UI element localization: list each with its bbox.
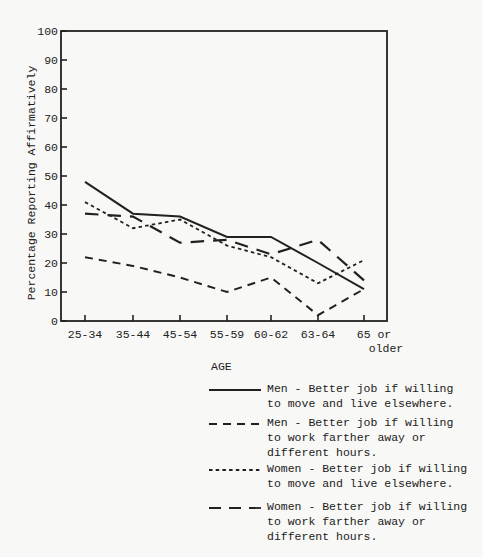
legend-label-line: Men - Better job if willing [267, 381, 453, 396]
medium-dash-swatch-icon [208, 419, 262, 429]
short-dash-swatch-icon [208, 465, 262, 475]
legend-label-line: to work farther away or [267, 514, 467, 529]
legend-entry-women-work: Women - Better job if willing to work fa… [208, 499, 467, 544]
legend-label-line: to move and live elsewhere. [267, 476, 467, 491]
legend-entry-men-move: Men - Better job if willing to move and … [208, 381, 453, 411]
figure-page: 010203040506070809010025-3435-4445-5455-… [0, 0, 483, 557]
legend-entry-men-work: Men - Better job if willing to work fart… [208, 415, 453, 460]
legend-label-line: different hours. [267, 529, 467, 544]
legend-label-line: Women - Better job if willing [267, 461, 467, 476]
solid-line-swatch-icon [208, 385, 262, 395]
legend-label-line: to work farther away or [267, 430, 453, 445]
long-dash-swatch-icon [208, 503, 262, 513]
legend-label-line: Men - Better job if willing [267, 415, 453, 430]
legend-entry-women-move: Women - Better job if willing to move an… [208, 461, 467, 491]
legend-label-line: to move and live elsewhere. [267, 396, 453, 411]
legend-label-line: different hours. [267, 445, 453, 460]
legend: Men - Better job if willing to move and … [0, 0, 483, 557]
legend-label-line: Women - Better job if willing [267, 499, 467, 514]
